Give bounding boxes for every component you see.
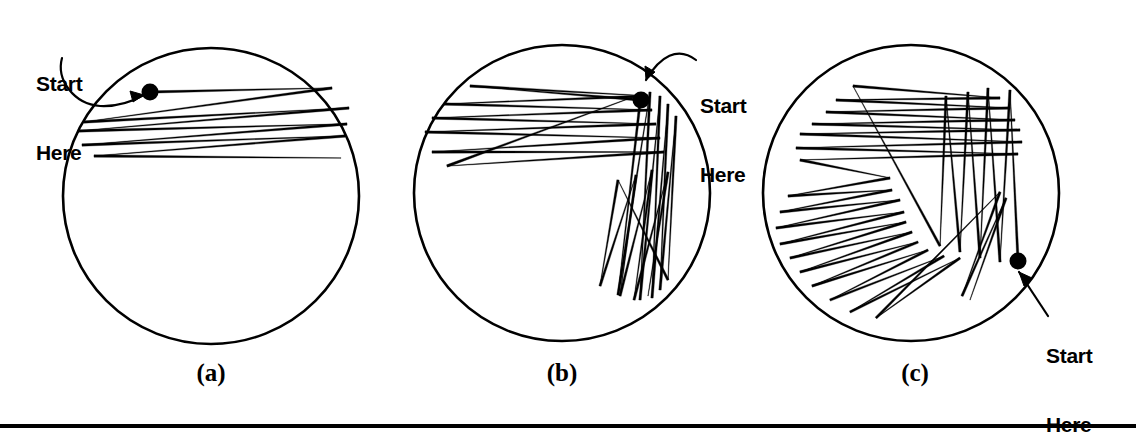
- trajectory-segment: [790, 232, 912, 259]
- trajectory-segment: [796, 141, 1022, 148]
- trajectory-segment: [776, 199, 900, 228]
- trajectory-segment: [444, 103, 652, 110]
- trajectory-segment: [1000, 90, 1011, 262]
- trajectory-segment: [946, 96, 961, 252]
- trajectory-segment: [432, 109, 652, 118]
- trajectory-segment: [800, 159, 890, 178]
- trajectory-segment: [599, 175, 636, 286]
- trajectory-segment: [836, 97, 1000, 100]
- start-here-line1-b: Start: [700, 94, 746, 117]
- trajectory-segment: [94, 155, 341, 158]
- start-here-label-b: Start Here: [700, 48, 746, 232]
- trajectory-a: [78, 87, 349, 158]
- trajectory-segment: [82, 136, 345, 146]
- trajectory-segment: [968, 92, 981, 258]
- trajectory-segment: [812, 123, 1020, 130]
- start-here-label-c: Start Here: [1046, 298, 1092, 436]
- trajectory-segment: [940, 96, 947, 246]
- trajectory-segment: [812, 119, 1015, 124]
- trajectory-segment: [800, 133, 1022, 142]
- panels-layer: [61, 45, 1059, 344]
- trajectory-segment: [853, 85, 1000, 98]
- panel-a: [61, 48, 359, 344]
- start-dot-a: [142, 84, 159, 101]
- trajectory-segment: [432, 151, 664, 153]
- trajectory-segment: [84, 108, 349, 123]
- trajectory-segment: [970, 198, 1007, 300]
- trajectory-segment: [826, 107, 1010, 112]
- start-dot-c: [1010, 253, 1027, 270]
- panel-label-c: (c): [875, 360, 955, 386]
- start-here-line2-b: Here: [700, 163, 746, 186]
- trajectory-segment: [470, 85, 648, 96]
- trajectory-segment: [82, 123, 347, 145]
- start-here-arrowhead-c: [1019, 272, 1032, 286]
- trajectory-segment: [875, 192, 1000, 319]
- trajectory-segment: [432, 137, 660, 152]
- start-here-label-a: Start Here: [36, 26, 82, 210]
- start-here-line1-a: Start: [36, 72, 82, 95]
- panel-c: [763, 45, 1059, 341]
- trajectory-segment: [800, 129, 1020, 134]
- panel-label-a: (a): [171, 360, 251, 386]
- trajectory-segment: [800, 242, 918, 273]
- trajectory-segment: [94, 135, 345, 156]
- start-dot-b: [633, 92, 650, 109]
- trajectory-segment: [1010, 90, 1019, 261]
- billiard-circle-a: [63, 48, 359, 344]
- start-here-line1-c: Start: [1046, 344, 1092, 367]
- trajectory-segment: [432, 117, 656, 124]
- figure-bottom-rule: [0, 424, 1136, 428]
- trajectory-c: [776, 85, 1022, 319]
- panel-b: [414, 45, 710, 341]
- trajectory-segment: [425, 131, 660, 138]
- panel-label-b: (b): [522, 360, 602, 386]
- start-here-line2-a: Here: [36, 141, 82, 164]
- trajectory-b: [425, 85, 677, 301]
- trajectory-segment: [780, 200, 900, 213]
